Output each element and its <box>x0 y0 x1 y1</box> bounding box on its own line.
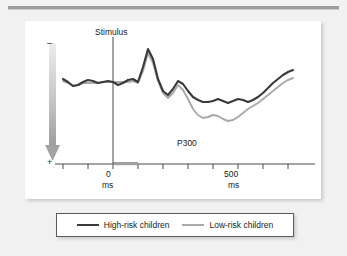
x-tick-unit-zero: ms <box>102 181 113 190</box>
top-divider-rule-shadow <box>8 9 339 10</box>
trace-low-risk <box>63 53 293 121</box>
polarity-negative-sign: – <box>47 39 52 48</box>
x-axis-ticks <box>63 164 288 169</box>
chart-legend: High-risk children Low-risk children <box>56 213 294 237</box>
x-tick-unit-500: ms <box>228 181 239 190</box>
legend-label-high-risk: High-risk children <box>104 221 170 230</box>
legend-line-icon-high-risk <box>77 224 99 226</box>
trace-high-risk <box>63 49 293 103</box>
erp-waveform-chart <box>25 21 321 199</box>
polarity-positive-sign: + <box>47 158 52 167</box>
polarity-arrow-icon <box>45 43 60 161</box>
legend-item-low-risk: Low-risk children <box>182 221 273 230</box>
figure-root: – + Stimulus P300 0 ms 500 ms High-risk … <box>0 0 347 256</box>
x-tick-label-zero: 0 <box>106 170 111 179</box>
legend-label-low-risk: Low-risk children <box>209 221 273 230</box>
p300-label: P300 <box>177 139 197 148</box>
x-tick-label-500: 500 <box>224 170 238 179</box>
stimulus-duration-marker <box>113 162 138 165</box>
legend-item-high-risk: High-risk children <box>77 221 170 230</box>
stimulus-label: Stimulus <box>95 28 128 37</box>
legend-line-icon-low-risk <box>182 224 204 226</box>
